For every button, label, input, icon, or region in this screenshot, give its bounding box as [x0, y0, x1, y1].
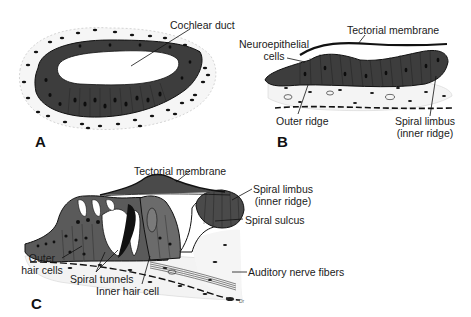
inner-hair-cell: [147, 208, 157, 232]
tectorial-membrane-c: [100, 174, 225, 195]
label-neuroepithelial-line1: Neuroepithelial: [236, 38, 312, 50]
label-spiral-limbus-b: Spiral limbus (inner ridge): [388, 115, 462, 139]
label-spiral-limbus-b-line1: Spiral limbus: [388, 115, 462, 127]
label-outer-ridge: Outer ridge: [276, 115, 329, 127]
label-spiral-tunnels: Spiral tunnels: [70, 273, 134, 285]
label-neuroepithelial-cells: Neuroepithelial cells: [236, 38, 312, 62]
cochlear-development-figure: Cochlear duct A Tectorial membrane Neuro…: [0, 0, 471, 317]
panel-letter-b: B: [277, 133, 288, 150]
label-spiral-limbus-c-line2: (inner ridge): [250, 195, 316, 207]
label-spiral-limbus-c: Spiral limbus (inner ridge): [250, 183, 316, 207]
label-spiral-sulcus: Spiral sulcus: [245, 214, 305, 226]
panel-letter-c: C: [31, 295, 42, 312]
label-neuroepithelial-line2: cells: [236, 50, 312, 62]
label-cochlear-duct: Cochlear duct: [170, 19, 235, 31]
label-outer-hair-cells: Outer hair cells: [18, 252, 66, 276]
label-small-mark: Dr: [239, 295, 244, 307]
label-spiral-limbus-b-line2: (inner ridge): [388, 127, 462, 139]
label-spiral-limbus-c-line1: Spiral limbus: [250, 183, 316, 195]
scale-mark: [226, 297, 234, 301]
label-tectorial-membrane-b: Tectorial membrane: [347, 24, 439, 36]
label-tectorial-membrane-c: Tectorial membrane: [134, 165, 226, 177]
label-inner-hair-cell: Inner hair cell: [96, 285, 159, 297]
label-auditory-nerve-fibers: Auditory nerve fibers: [248, 266, 344, 278]
panel-letter-a: A: [35, 133, 46, 150]
label-outer-hair-cells-line2: hair cells: [18, 264, 66, 276]
label-outer-hair-cells-line1: Outer: [18, 252, 66, 264]
